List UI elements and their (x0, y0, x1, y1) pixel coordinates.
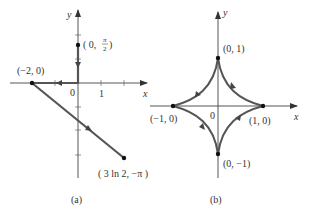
caption-a: (a) (71, 194, 82, 206)
y-axis-label-b: y (222, 7, 228, 18)
point-label-0-1: (0, 1) (223, 43, 245, 55)
point-3ln2-negpi (122, 156, 126, 160)
caption-b: (b) (210, 194, 222, 206)
panel-a: y x 0 1 ( 0, π 2 ) (−2, 0) ( 3 ln 2, −π … (10, 9, 148, 206)
origin-label-b: 0 (210, 110, 215, 121)
arrow-upper-right-icon (230, 82, 236, 89)
point-label-0-neg1: (0, −1) (223, 158, 250, 170)
panel-b: y x 0 (0, 1) (−1, 0) (1, 0) (0, −1) (b) (150, 7, 299, 206)
point-label-neg1-0: (−1, 0) (150, 113, 177, 125)
svg-text:): ) (109, 39, 112, 51)
origin-label-a: 0 (70, 87, 75, 98)
point-neg2-0 (30, 81, 34, 85)
x-axis-label-b: x (293, 111, 299, 122)
arrow-down-icon (75, 62, 81, 68)
svg-text:π: π (103, 36, 107, 44)
point-neg1-0 (171, 104, 175, 108)
svg-text:2: 2 (103, 45, 107, 53)
y-axis-label-a: y (66, 9, 72, 20)
x-axis-label-a: x (142, 88, 148, 99)
arrow-lower-left-icon (199, 123, 205, 130)
svg-text:( 0,: ( 0, (83, 39, 96, 51)
x-tick-label-1: 1 (99, 88, 104, 99)
point-label-1-0: (1, 0) (249, 115, 271, 127)
point-label-0-pi-over-2: ( 0, π 2 ) (83, 36, 112, 53)
arrow-left-icon (56, 80, 62, 86)
point-0-1 (216, 56, 220, 60)
point-0-pi-over-2 (76, 43, 80, 47)
point-1-0 (261, 104, 265, 108)
point-label-3ln2-negpi: ( 3 ln 2, −π ) (98, 168, 148, 180)
point-label-neg2-0: (−2, 0) (17, 65, 44, 77)
figure-canvas: y x 0 1 ( 0, π 2 ) (−2, 0) ( 3 ln 2, −π … (0, 0, 309, 218)
point-0-neg1 (216, 152, 220, 156)
arrow-lower-right-icon (235, 115, 241, 121)
